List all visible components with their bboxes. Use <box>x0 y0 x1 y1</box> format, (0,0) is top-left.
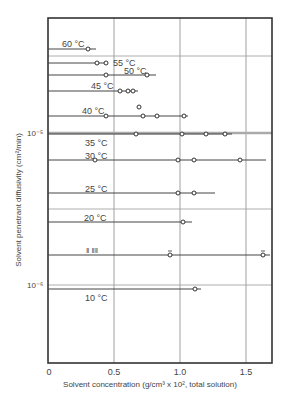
label-50c: 50 °C <box>124 66 147 76</box>
x-tick-0-5: 0.5 <box>108 367 121 377</box>
point-marks <box>169 250 264 252</box>
x-axis-title: Solvent concentration (g/cm³ x 10², tota… <box>63 380 237 389</box>
label-60c: 60 °C <box>62 39 85 49</box>
label-30c: 30 °C <box>85 151 108 161</box>
horizontal-gridlines <box>48 56 272 285</box>
diffusivity-chart: 60 °C 55 °C 50 °C 45 °C 40 °C 35 °C 30 °… <box>0 0 286 401</box>
y-tick-1e-6: 10⁻⁶ <box>27 281 43 290</box>
x-tick-1-0: 1.0 <box>174 367 187 377</box>
label-10c: 10 °C <box>85 293 108 303</box>
plot-frame <box>48 18 272 363</box>
label-45c: 45 °C <box>91 81 114 91</box>
label-20c: 20 °C <box>84 213 107 223</box>
x-tick-labels: 0 0.5 1.0 1.5 <box>46 367 252 377</box>
label-marks: ‖ ‖‖ <box>86 246 98 255</box>
label-40c: 40 °C <box>82 106 105 116</box>
y-tick-labels: 10⁻⁵ 10⁻⁶ <box>27 129 43 290</box>
label-25c: 25 °C <box>85 184 108 194</box>
series-labels: 60 °C 55 °C 50 °C 45 °C 40 °C 35 °C 30 °… <box>62 39 147 303</box>
series-lines <box>48 49 270 289</box>
label-35c: 35 °C <box>85 138 108 148</box>
x-tick-1-5: 1.5 <box>240 367 253 377</box>
x-tick-0: 0 <box>46 367 51 377</box>
y-tick-1e-5: 10⁻⁵ <box>27 129 43 138</box>
y-axis-title: Solvent penetrant diffusivity (cm²/min) <box>14 133 23 267</box>
